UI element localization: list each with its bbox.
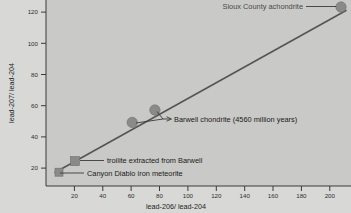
chart-svg: 120 100 80 60 40 20 20 40 60 80 100 <box>0 0 351 213</box>
x-tick-label-40: 40 <box>99 192 106 199</box>
data-point-sioux-county <box>336 2 346 12</box>
y-axis-ticks <box>41 12 46 168</box>
y-axis-tick-labels: 120 100 80 60 40 20 <box>28 8 39 171</box>
y-tick-label-60: 60 <box>31 102 38 109</box>
y-tick-label-80: 80 <box>31 71 38 78</box>
annotation-sioux-county: Sioux County achondrite <box>222 2 303 11</box>
y-tick-label-120: 120 <box>28 8 39 15</box>
x-tick-label-140: 140 <box>240 192 251 199</box>
x-tick-label-180: 180 <box>296 192 307 199</box>
x-tick-label-120: 120 <box>211 192 222 199</box>
x-axis-tick-labels: 20 40 60 80 100 120 140 160 180 200 <box>71 192 336 199</box>
y-tick-label-100: 100 <box>28 40 39 47</box>
x-tick-label-160: 160 <box>268 192 279 199</box>
annotation-leader-lines <box>60 7 336 174</box>
isochron-chart-figure: 120 100 80 60 40 20 20 40 60 80 100 <box>0 0 351 213</box>
annotation-troilite: troilite extracted from Barwell <box>107 156 203 165</box>
data-point-canyon-diablo <box>55 168 63 176</box>
isochron-line <box>55 10 347 173</box>
x-tick-label-100: 100 <box>183 192 194 199</box>
x-tick-label-200: 200 <box>325 192 336 199</box>
x-tick-label-20: 20 <box>71 192 78 199</box>
y-tick-label-20: 20 <box>31 164 38 171</box>
data-points <box>55 2 346 176</box>
data-point-troilite <box>70 157 79 166</box>
x-axis-ticks <box>74 186 329 191</box>
y-tick-label-40: 40 <box>31 133 38 140</box>
x-axis-title: lead-206/ lead-204 <box>146 202 206 211</box>
annotation-canyon-diablo: Canyon Diablo iron meteorite <box>87 169 183 178</box>
x-tick-label-80: 80 <box>156 192 163 199</box>
y-axis-title: lead-207/ lead-204 <box>7 63 16 123</box>
data-point-barwell-chondrite-a <box>127 117 137 127</box>
annotation-barwell-chondrite: Barwell chondrite (4560 million years) <box>174 115 297 124</box>
x-tick-label-60: 60 <box>128 192 135 199</box>
